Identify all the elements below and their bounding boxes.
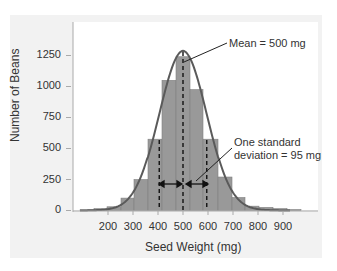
y-tick-1000: 1000 <box>21 79 61 91</box>
y-tick-1250: 1250 <box>21 48 61 60</box>
x-tick-900: 900 <box>268 220 298 232</box>
y-axis-label: Number of Beans <box>8 49 22 142</box>
y-tick-500: 500 <box>21 141 61 153</box>
y-tick-750: 750 <box>21 110 61 122</box>
histogram-bar <box>162 80 176 210</box>
histogram-bar <box>134 180 148 211</box>
mean-annotation: Mean = 500 mg <box>229 37 306 50</box>
histogram-bar <box>218 177 232 210</box>
histogram-bar <box>190 90 203 211</box>
y-tick-0: 0 <box>21 203 61 215</box>
y-tick-250: 250 <box>21 173 61 185</box>
x-axis-label: Seed Weight (mg) <box>145 240 242 254</box>
sd-annotation-line1: One standard <box>234 136 301 149</box>
sd-annotation-line2: deviation = 95 mg <box>234 149 321 162</box>
